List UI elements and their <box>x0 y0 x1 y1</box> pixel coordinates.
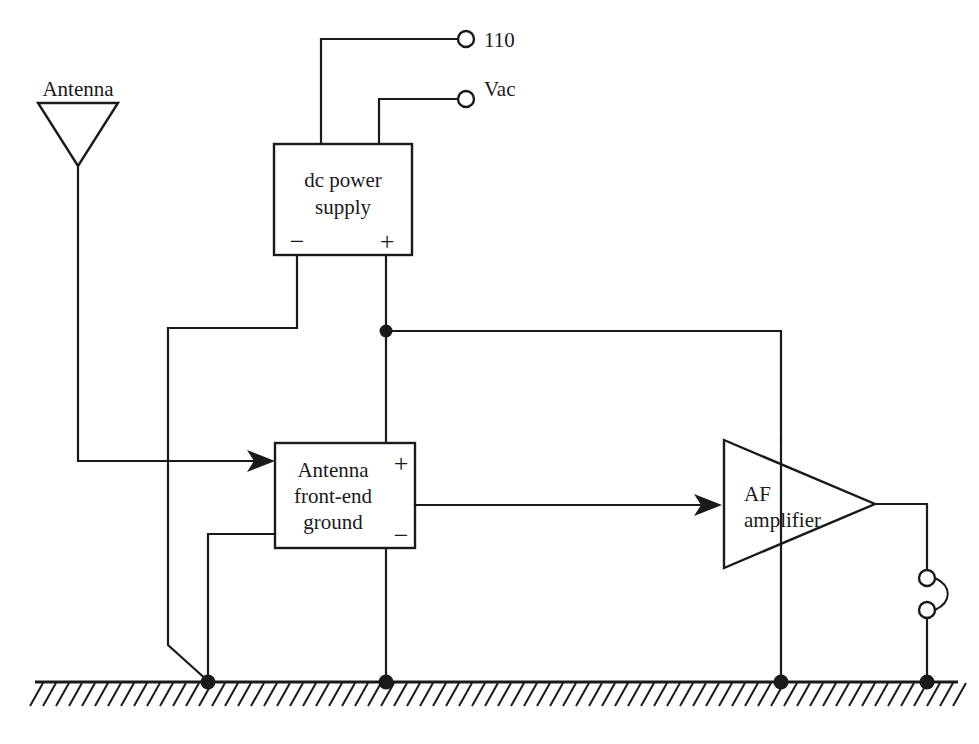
dc-power-supply-label-line2: supply <box>315 195 372 219</box>
circuit-diagram-canvas: Antenna 110 Vac dc power supply − + <box>0 0 979 744</box>
mains-terminal-lower-icon[interactable] <box>458 91 474 107</box>
dc-power-supply-label-line1: dc power <box>304 168 382 192</box>
front-end-negative-sign: − <box>394 521 409 550</box>
amplifier-output-wire <box>875 504 927 571</box>
front-end-label-line1: Antenna <box>297 458 369 482</box>
antenna-triangle <box>38 103 118 166</box>
front-end-label-line2: front-end <box>294 484 373 508</box>
jack-terminal-upper-icon[interactable] <box>919 570 935 586</box>
schematic-svg: Antenna 110 Vac dc power supply − + <box>0 0 979 744</box>
front-end-positive-sign: + <box>394 449 409 478</box>
dc-power-supply-block[interactable]: dc power supply − + <box>274 144 412 256</box>
antenna-label: Antenna <box>42 77 114 101</box>
mains-terminal-upper-icon[interactable] <box>458 31 474 47</box>
af-amplifier-triangle[interactable]: AF amplifier <box>724 440 875 568</box>
ground-node-jack-dot <box>920 675 935 690</box>
front-end-negative-ground-wire <box>208 534 275 681</box>
dc-supply-positive-sign: + <box>380 227 395 256</box>
af-amplifier-label-line2: amplifier <box>744 508 821 532</box>
ground-node-chassis-dot <box>201 675 216 690</box>
ground-node-amplifier-dot <box>774 675 789 690</box>
mains-supply-group: 110 Vac <box>321 28 515 144</box>
mains-voltage-label-line2: Vac <box>484 77 515 101</box>
antenna-symbol: Antenna <box>38 77 262 461</box>
dc-supply-negative-sign: − <box>290 227 305 256</box>
jack-terminal-lower-icon[interactable] <box>919 602 935 618</box>
ground-node-front-end-dot <box>379 675 394 690</box>
front-end-label-line3: ground <box>303 510 363 534</box>
earth-ground-bar <box>30 682 966 706</box>
output-jack-symbol[interactable] <box>919 570 948 618</box>
supply-positive-junction-dot <box>380 325 393 338</box>
mains-upper-wire <box>321 39 458 144</box>
ground-hatch-marks <box>30 683 966 706</box>
positive-rail-to-amplifier-wire <box>386 331 781 440</box>
mains-voltage-label-line1: 110 <box>484 28 515 52</box>
antenna-front-end-ground-block[interactable]: Antenna front-end ground + − <box>275 443 415 550</box>
mains-lower-wire <box>379 99 458 144</box>
jack-arc <box>935 578 948 610</box>
antenna-lead-wire <box>78 166 262 461</box>
af-amplifier-label-line1: AF <box>744 482 771 506</box>
